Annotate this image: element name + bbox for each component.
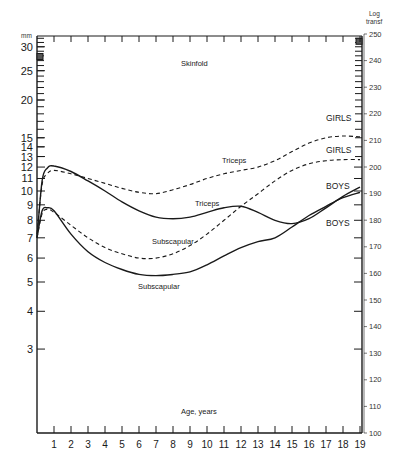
right-tick-label: 130 [369, 349, 382, 358]
right-tick-label: 250 [369, 30, 382, 39]
series-triceps-girls [37, 136, 360, 234]
axis-marker [37, 54, 43, 60]
label-boys-subscapular: BOYS [326, 218, 350, 228]
right-tick-label: 170 [369, 242, 382, 251]
x-tick-label: 17 [320, 439, 332, 450]
label-girls-triceps: GIRLS [326, 113, 352, 123]
left-tick-label: 15 [21, 132, 33, 144]
label-girls-subscapular: GIRLS [326, 145, 352, 155]
right-tick-label: 230 [369, 83, 382, 92]
right-tick-label: 120 [369, 375, 382, 384]
x-tick-label: 7 [153, 439, 159, 450]
x-tick-label: 10 [201, 439, 213, 450]
x-tick-label: 3 [85, 439, 91, 450]
x-tick-label: 13 [252, 439, 264, 450]
right-tick-label: 150 [369, 296, 382, 305]
x-tick-label: 18 [337, 439, 349, 450]
x-tick-label: 19 [354, 439, 366, 450]
right-unit-label-line1: Log [369, 10, 380, 18]
left-tick-label: 5 [27, 276, 33, 288]
left-tick-label: 30 [21, 41, 33, 53]
x-tick-label: 9 [187, 439, 193, 450]
x-tick-label: 14 [269, 439, 281, 450]
right-tick-label: 240 [369, 56, 382, 65]
right-tick-label: 220 [369, 109, 382, 118]
left-tick-label: 20 [21, 94, 33, 106]
right-unit-label-line2: transf [366, 18, 382, 25]
left-tick-label: 11 [22, 172, 33, 184]
left-unit-label: mm [21, 32, 32, 39]
skinfold-chart: 3456789101112131415202530 10011012013014… [0, 0, 401, 465]
axis-marker [356, 38, 362, 44]
left-tick-label: 4 [27, 305, 33, 317]
chart-title: Skinfold [181, 59, 208, 68]
right-tick-label: 190 [369, 189, 382, 198]
x-tick-label: 4 [102, 439, 108, 450]
right-tick-label: 160 [369, 269, 382, 278]
right-tick-label: 110 [369, 402, 381, 411]
x-tick-label: 16 [303, 439, 315, 450]
x-tick-label: 15 [286, 439, 298, 450]
label-boys-triceps: BOYS [326, 181, 350, 191]
left-tick-label: 12 [21, 161, 33, 173]
x-tick-label: 1 [51, 439, 57, 450]
label-triceps-boys: Triceps [195, 199, 220, 208]
left-tick-label: 6 [27, 252, 33, 264]
left-axis-labels: 3456789101112131415202530 [21, 41, 33, 355]
x-axis-title: Age, years [181, 407, 217, 416]
right-tick-label: 200 [369, 163, 382, 172]
right-axis-labels: 1001101201301401501601701801902002102202… [369, 30, 382, 438]
label-subscapular-girls: Subscapular [152, 237, 194, 246]
x-tick-label: 11 [219, 439, 230, 450]
x-tick-label: 12 [235, 439, 247, 450]
label-triceps-girls: Triceps [222, 156, 247, 165]
x-axis-labels: 12345678910111213141516171819 [51, 439, 366, 450]
left-tick-label: 7 [27, 232, 33, 244]
axes [37, 34, 364, 433]
left-tick-label: 9 [27, 199, 33, 211]
label-subscapular-boys: Subscapular [138, 282, 180, 291]
x-tick-label: 8 [170, 439, 176, 450]
x-tick-label: 5 [119, 439, 125, 450]
right-tick-label: 180 [369, 216, 382, 225]
left-tick-label: 3 [27, 343, 33, 355]
series-subscapular-girls [37, 160, 360, 259]
right-tick-label: 100 [369, 429, 382, 438]
left-tick-label: 25 [21, 65, 33, 77]
left-tick-label: 10 [21, 185, 33, 197]
right-axis-ticks [354, 34, 367, 433]
right-tick-label: 140 [369, 322, 382, 331]
left-tick-label: 8 [27, 214, 33, 226]
x-tick-label: 6 [136, 439, 142, 450]
right-tick-label: 210 [369, 136, 382, 145]
x-tick-label: 2 [68, 439, 74, 450]
